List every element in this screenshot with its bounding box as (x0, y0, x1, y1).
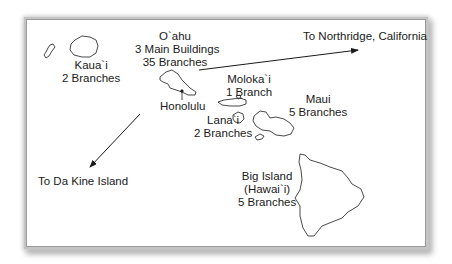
maui-island (253, 111, 294, 136)
label-maui: Maui 5 Branches (289, 93, 347, 119)
kauai-island (70, 36, 98, 57)
label-big-island: Big Island (Hawai`i) 5 Branches (238, 170, 296, 209)
molokai-island (218, 98, 246, 106)
kahoolawe-island (255, 134, 264, 140)
label-to-northridge: To Northridge, California (303, 30, 427, 43)
niihau-island (44, 44, 55, 58)
label-lanai: Lana`i 2 Branches (194, 114, 252, 140)
big-island (295, 154, 364, 236)
label-honolulu: Honolulu (160, 100, 205, 113)
arrow-to-northridge (199, 50, 358, 70)
label-to-da-kine: To Da Kine Island (38, 175, 128, 188)
label-kauai: Kaua`i 2 Branches (62, 59, 120, 85)
oahu-island (160, 70, 196, 95)
label-oahu: O`ahu 3 Main Buildings 35 Branches (135, 30, 215, 69)
arrow-to-da-kine (90, 114, 140, 167)
label-molokai: Moloka`i 1 Branch (226, 73, 272, 99)
